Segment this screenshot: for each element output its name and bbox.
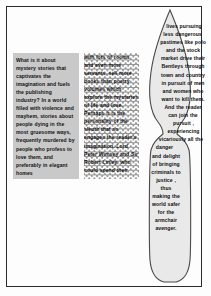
patterned-text-box-body: with lots of rooms and even more servant… xyxy=(84,53,139,174)
vase-shaped-text-box: lives pursuing less dangerous pastimes l… xyxy=(134,8,206,289)
document-page: What is it about mystery stories that ca… xyxy=(0,0,211,296)
shaded-text-box-body: What is it about mystery stories that ca… xyxy=(16,56,76,177)
vase-shaped-text-body: lives pursuing less dangerous pastimes l… xyxy=(134,8,206,289)
shaded-text-box: What is it about mystery stories that ca… xyxy=(13,53,79,179)
vase-text-content: lives pursuing less dangerous pastimes l… xyxy=(151,23,206,231)
patterned-text-box: with lots of rooms and even more servant… xyxy=(84,53,139,179)
